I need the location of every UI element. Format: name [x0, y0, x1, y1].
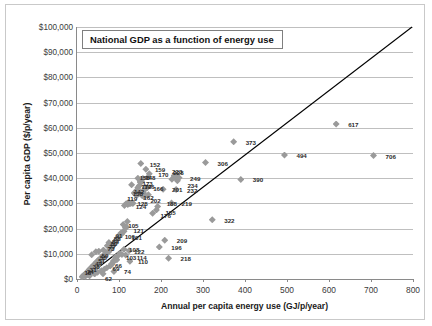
gridline — [77, 153, 413, 154]
data-point-label: 103 — [126, 253, 136, 260]
x-axis-tick-label: 100 — [112, 285, 126, 295]
data-point-label: 18 — [84, 269, 91, 276]
data-point[interactable] — [161, 237, 168, 244]
gridline — [77, 52, 413, 53]
data-point-label: 166 — [153, 184, 163, 191]
data-point-label: 121 — [134, 227, 144, 234]
x-axis-tick-mark — [245, 279, 246, 282]
data-point[interactable] — [230, 138, 237, 145]
chart-container: Per capita GDP ($/p/year) $0$10,000$20,0… — [0, 0, 432, 326]
y-axis-tick-label: $100,000 — [11, 23, 73, 32]
data-point[interactable] — [333, 121, 340, 128]
data-point[interactable] — [209, 216, 216, 223]
x-axis-tick-mark — [161, 279, 162, 282]
data-point-label: 306 — [218, 159, 228, 166]
x-axis-tick-label: 600 — [322, 285, 336, 295]
data-point-label: 110 — [138, 258, 148, 265]
x-axis-title: Annual per capita energy use (GJ/p/year) — [76, 301, 413, 311]
gridline — [77, 77, 413, 78]
x-axis-tick-mark — [329, 279, 330, 282]
data-point[interactable] — [156, 243, 163, 250]
x-axis-tick-mark — [287, 279, 288, 282]
chart-frame: Per capita GDP ($/p/year) $0$10,000$20,0… — [5, 4, 425, 320]
x-axis-tick-label: 400 — [238, 285, 252, 295]
data-point-label: 62 — [105, 274, 112, 281]
data-point-label: 390 — [253, 176, 263, 183]
y-axis-tick-label: $70,000 — [11, 98, 73, 107]
y-axis-tick-label: $40,000 — [11, 174, 73, 183]
data-point-label: 119 — [127, 195, 137, 202]
x-axis-tick-label: 300 — [196, 285, 210, 295]
x-axis-tick-mark — [413, 279, 414, 282]
plot-area: $0$10,000$20,000$30,000$40,000$50,000$60… — [76, 27, 413, 280]
data-point[interactable] — [237, 176, 244, 183]
gridline — [77, 27, 413, 28]
x-axis-tick-label: 200 — [154, 285, 168, 295]
data-point[interactable] — [165, 255, 172, 262]
y-axis-tick-label: $20,000 — [11, 224, 73, 233]
data-point-label: 74 — [124, 268, 131, 275]
data-point-label: 101 — [132, 234, 142, 241]
data-point-label: 249 — [190, 174, 200, 181]
data-point-label: 202 — [150, 196, 160, 203]
gridline — [77, 178, 413, 179]
x-axis-tick-mark — [371, 279, 372, 282]
x-axis-tick-mark — [77, 279, 78, 282]
y-axis-tick-label: $80,000 — [11, 73, 73, 82]
gridline — [77, 128, 413, 129]
data-point-label: 69 — [112, 264, 119, 271]
x-axis-tick-label: 700 — [364, 285, 378, 295]
y-axis-tick-label: $0 — [11, 275, 73, 284]
x-axis-tick-mark — [203, 279, 204, 282]
data-point-label: 234 — [187, 181, 197, 188]
data-point-label: 124 — [136, 203, 146, 210]
data-point-label: 322 — [224, 216, 234, 223]
data-point[interactable] — [202, 159, 209, 166]
gridline — [77, 103, 413, 104]
y-axis-tick-label: $10,000 — [11, 249, 73, 258]
x-axis-tick-label: 800 — [406, 285, 420, 295]
data-point[interactable] — [137, 160, 144, 167]
x-axis-tick-mark — [119, 279, 120, 282]
y-axis-tick-label: $30,000 — [11, 199, 73, 208]
data-point-label: 196 — [171, 243, 181, 250]
y-axis-tick-label: $60,000 — [11, 123, 73, 132]
data-point-label: 188 — [167, 200, 177, 207]
data-point-label: 617 — [348, 121, 358, 128]
data-point-label: 706 — [386, 152, 396, 159]
data-point-label: 146 — [144, 182, 154, 189]
data-point-label: 176 — [161, 212, 171, 219]
y-axis-tick-label: $50,000 — [11, 149, 73, 158]
data-point-label: 152 — [150, 160, 160, 167]
data-point-label: 219 — [182, 199, 192, 206]
x-axis-tick-label: 0 — [75, 285, 80, 295]
data-point-label: 148 — [145, 173, 155, 180]
chart-title: National GDP as a function of energy use — [82, 30, 283, 49]
data-point-label: 373 — [246, 138, 256, 145]
data-point-label: 494 — [296, 152, 306, 159]
data-point-label: 218 — [181, 255, 191, 262]
x-axis-tick-label: 500 — [280, 285, 294, 295]
data-point-label: 223 — [172, 167, 182, 174]
data-point-label: 201 — [172, 186, 182, 193]
y-axis-tick-label: $90,000 — [11, 48, 73, 57]
